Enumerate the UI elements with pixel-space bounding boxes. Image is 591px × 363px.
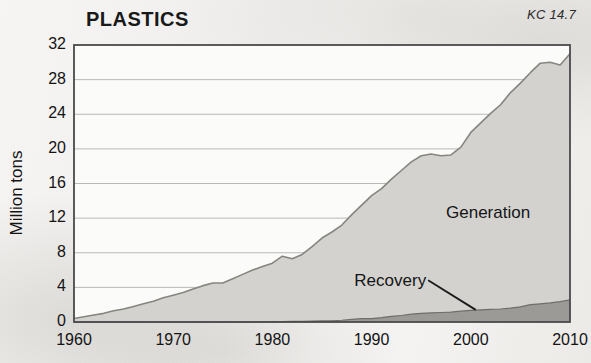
plastics-area-chart: PLASTICS KC 14.7 Million tons 0481216202… — [0, 0, 591, 363]
series-label-recovery: Recovery — [354, 271, 426, 291]
plot-area — [0, 0, 591, 363]
series-label-generation: Generation — [446, 203, 530, 223]
